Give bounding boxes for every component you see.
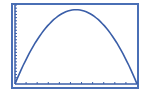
graph-screen (0, 0, 147, 93)
